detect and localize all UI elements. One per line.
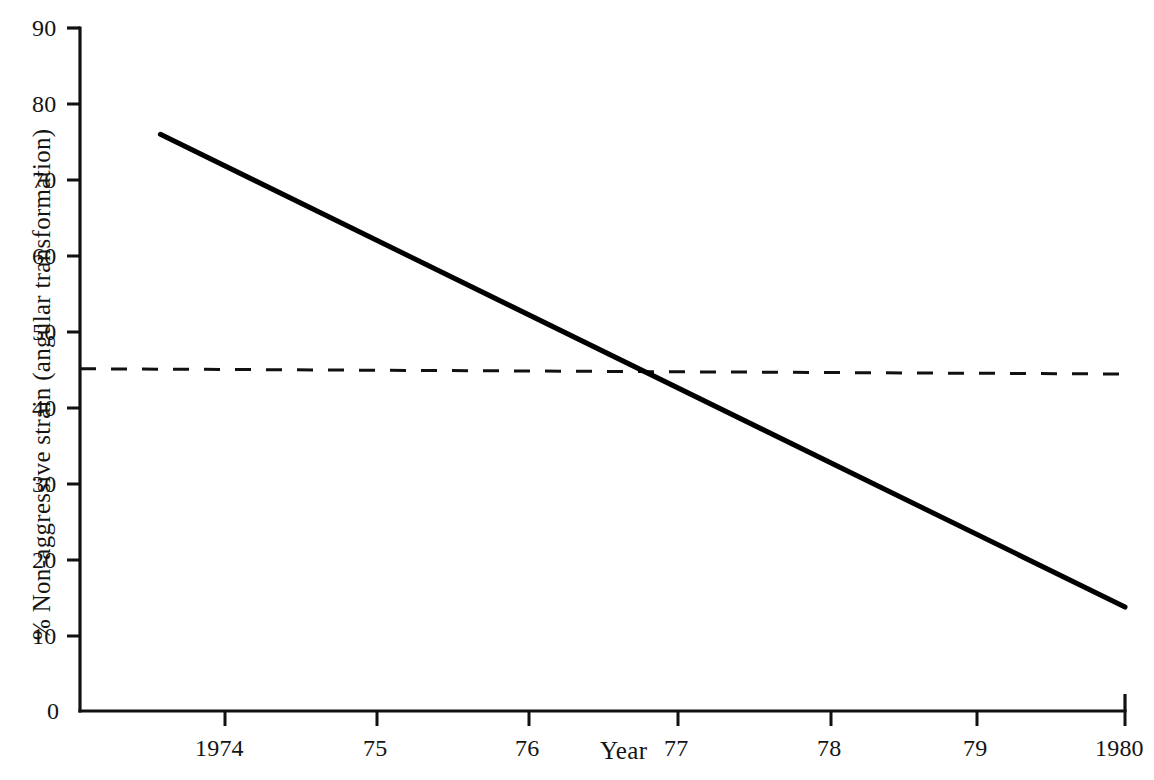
x-tick-label-1975: 75 <box>363 736 387 760</box>
x-tick-label-1980: 1980 <box>1095 736 1144 760</box>
x-tick-label-1977: 77 <box>664 736 688 760</box>
y-tick-label-80: 80 <box>32 92 56 116</box>
x-tick-label-1974: 1974 <box>195 736 244 760</box>
reference-dashed-line <box>80 369 1130 374</box>
x-tick-label-1979: 79 <box>963 736 987 760</box>
chart-figure: 90 80 70 60 50 40 30 20 10 0 1974 75 76 … <box>0 0 1154 780</box>
x-axis-ticks <box>225 711 1125 726</box>
x-tick-label-1976: 76 <box>515 736 539 760</box>
x-tick-label-1978: 78 <box>817 736 841 760</box>
y-tick-label-0: 0 <box>47 699 59 723</box>
y-axis-ticks <box>67 104 80 636</box>
y-axis-title: % Non-aggressive strain (angular transfo… <box>28 129 56 640</box>
y-tick-label-90: 90 <box>32 16 56 40</box>
line-chart-plot <box>0 0 1154 780</box>
x-axis-title: Year <box>600 737 647 765</box>
